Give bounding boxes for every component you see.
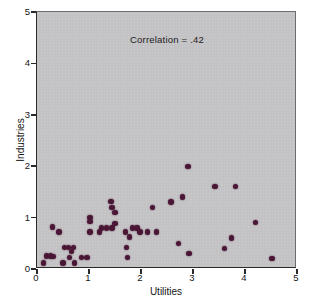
data-point (176, 241, 181, 246)
data-point (127, 234, 132, 239)
y-axis-tick-label: 1 (25, 211, 30, 222)
y-axis-tick (31, 114, 36, 116)
data-point (137, 229, 142, 234)
plot-area: Correlation = .42 (36, 11, 296, 268)
correlation-annotation: Correlation = .42 (37, 34, 297, 45)
x-axis-label: Utilities (36, 286, 296, 297)
data-point (212, 184, 217, 189)
y-axis-tick-label: 5 (25, 6, 30, 17)
data-point (84, 255, 89, 260)
data-point (125, 255, 130, 260)
x-axis-tick-label: 1 (85, 272, 90, 283)
x-axis-tick-label: 0 (33, 272, 38, 283)
data-point (145, 229, 150, 234)
data-point (229, 235, 234, 240)
data-point (87, 229, 92, 234)
data-point (154, 229, 159, 234)
data-point (253, 220, 258, 225)
y-axis-label: Industries (15, 80, 26, 200)
x-axis-tick-label: 4 (241, 272, 246, 283)
data-point (41, 260, 46, 265)
y-axis-tick-label: 4 (25, 57, 30, 68)
data-point (112, 210, 117, 215)
data-point (180, 194, 185, 199)
data-point (233, 184, 238, 189)
data-point (269, 256, 274, 261)
y-axis-tick (31, 11, 36, 13)
y-axis-tick (31, 217, 36, 219)
data-point (50, 224, 55, 229)
scatter-plot-figure: Correlation = .42 012345012345 Utilities… (0, 0, 310, 301)
x-axis-tick-label: 2 (137, 272, 142, 283)
data-point (112, 221, 117, 226)
y-axis-tick (31, 63, 36, 65)
data-point (71, 245, 76, 250)
data-point (67, 255, 72, 260)
y-axis-tick-label: 0 (25, 263, 30, 274)
data-point (87, 219, 92, 224)
data-point (56, 229, 61, 234)
panel-texture (37, 12, 295, 267)
data-point (168, 199, 173, 204)
data-point (150, 205, 155, 210)
y-axis-tick (31, 165, 36, 167)
data-point (50, 254, 55, 259)
data-point (185, 164, 190, 169)
y-axis-tick (31, 268, 36, 270)
data-point (72, 260, 77, 265)
data-point (60, 260, 65, 265)
data-point (222, 246, 227, 251)
y-axis-label-wrapper: Industries (8, 11, 22, 268)
data-point (186, 251, 191, 256)
data-point (124, 245, 129, 250)
x-axis-tick-label: 3 (189, 272, 194, 283)
data-point (108, 199, 113, 204)
x-axis-tick-label: 5 (293, 272, 298, 283)
